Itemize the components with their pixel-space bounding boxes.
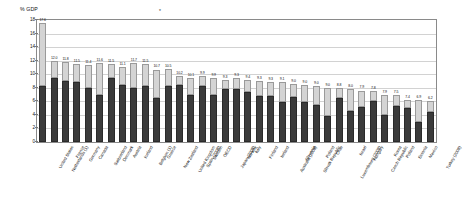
bar-value-label: 7.9 — [382, 90, 387, 94]
bar-segment-public — [108, 78, 115, 142]
bar-value-label: 11.7 — [131, 58, 137, 62]
bar-value-label: 9.4 — [246, 75, 251, 79]
bar-value-label: 9.0 — [314, 81, 319, 85]
bar-segment-private — [347, 89, 354, 111]
bar-segment-private — [39, 23, 46, 86]
bar-value-label: 9.3 — [223, 75, 228, 79]
bar-segment-public — [222, 89, 229, 142]
bar-column — [267, 82, 274, 142]
bar-segment-public — [210, 95, 217, 142]
bar-segment-private — [130, 63, 137, 89]
bar-segment-private — [199, 76, 206, 86]
bar-value-label: 10.7 — [153, 64, 159, 68]
bar-segment-private — [210, 78, 217, 96]
bar-column — [130, 63, 137, 142]
bar-value-label: 6.9 — [417, 95, 422, 99]
bar-segment-private — [62, 62, 69, 81]
x-tick-label: Israel — [358, 145, 367, 156]
bar-segment-private — [165, 69, 172, 85]
bar-segment-public — [427, 112, 434, 142]
bar-column — [301, 85, 308, 142]
bar-value-label: 7.5 — [394, 90, 399, 94]
x-axis-labels: United StatesNetherlands (1)FranceGerman… — [37, 145, 436, 211]
bar-segment-private — [358, 91, 365, 107]
bar-value-label: 6.2 — [428, 96, 433, 100]
bar-segment-public — [358, 107, 365, 142]
bar-column — [313, 86, 320, 142]
bar-value-label: 10.5 — [165, 64, 171, 68]
bar-segment-private — [301, 85, 308, 102]
bar-segment-private — [370, 91, 377, 100]
bar-column — [347, 89, 354, 142]
bar-segment-private — [51, 61, 58, 78]
bar-segment-public — [85, 88, 92, 142]
bar-column — [393, 95, 400, 142]
bar-segment-public — [267, 96, 274, 142]
bar-segment-public — [51, 78, 58, 142]
bar-segment-private — [267, 82, 274, 96]
bar-column — [199, 76, 206, 142]
bar-column — [415, 100, 422, 142]
bar-column — [381, 95, 388, 142]
x-tick-label: Hungary — [372, 145, 384, 161]
bar-segment-public — [404, 108, 411, 142]
bar-value-label: 9.0 — [303, 80, 308, 84]
bar-column — [404, 100, 411, 142]
y-axis-title: % GDP — [20, 6, 38, 12]
bar-column — [62, 62, 69, 142]
bar-segment-public — [153, 98, 160, 142]
bar-segment-private — [108, 64, 115, 78]
bar-value-label: 10.2 — [176, 71, 182, 75]
bar-column — [39, 23, 46, 142]
bar-value-label: 11.1 — [119, 62, 125, 66]
bar-segment-public — [73, 82, 80, 142]
top-marker: * — [159, 8, 161, 14]
bar-value-label: 9.3 — [268, 77, 273, 81]
bar-value-label: 8.0 — [348, 84, 353, 88]
bar-segment-private — [73, 64, 80, 82]
bar-column — [187, 78, 194, 142]
bar-value-label: 11.6 — [97, 58, 103, 62]
bar-column — [119, 67, 126, 142]
bar-segment-public — [39, 86, 46, 142]
bar-value-label: 11.5 — [108, 59, 114, 63]
bar-segment-private — [279, 82, 286, 102]
bar-value-label: 8.8 — [337, 83, 342, 87]
bar-segment-private — [336, 88, 343, 97]
bar-column — [51, 61, 58, 142]
bar-segment-private — [233, 78, 240, 89]
bar-value-label: 17.6 — [39, 18, 45, 22]
bar-value-label: 11.4 — [85, 60, 91, 64]
x-tick-label: New Zealand — [182, 145, 199, 169]
bar-segment-public — [415, 122, 422, 142]
bar-column — [85, 65, 92, 142]
bar-segment-private — [96, 63, 103, 94]
bar-column — [108, 64, 115, 142]
bar-segment-private — [415, 100, 422, 122]
bar-column — [210, 78, 217, 142]
bar-value-label: 9.3 — [257, 76, 262, 80]
bar-column — [222, 80, 229, 142]
x-tick-label: Iceland — [143, 145, 154, 159]
bar-value-label: 9.1 — [280, 77, 285, 81]
bar-column — [233, 78, 240, 142]
bar-segment-public — [324, 116, 331, 142]
y-axis: 181614121086420 — [22, 19, 35, 143]
bar-column — [370, 91, 377, 142]
bar-segment-public — [313, 105, 320, 142]
bar-column — [358, 91, 365, 143]
bar-segment-public — [233, 89, 240, 142]
bar-value-label: 9.0 — [291, 79, 296, 83]
bar-segment-public — [187, 95, 194, 142]
bar-segment-private — [404, 100, 411, 108]
bar-segment-private — [222, 80, 229, 89]
bar-column — [73, 64, 80, 142]
bar-column — [96, 63, 103, 142]
bar-value-label: 12.0 — [51, 56, 57, 60]
bar-segment-private — [142, 64, 149, 86]
bar-segment-public — [96, 95, 103, 142]
bar-segment-public — [336, 98, 343, 142]
bar-column — [336, 88, 343, 142]
bar-segment-private — [244, 80, 251, 92]
